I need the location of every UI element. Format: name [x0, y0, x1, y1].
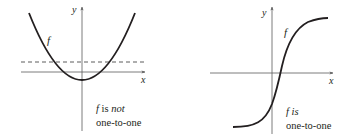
right-graph: y x f f is one-to-one	[210, 7, 334, 134]
left-caption-line2: one-to-one	[96, 117, 142, 128]
right-x-label: x	[328, 75, 334, 86]
left-x-label: x	[140, 74, 146, 85]
right-y-label: y	[261, 7, 267, 18]
left-graph: y x f f is not one-to-one	[21, 4, 146, 131]
left-caption-line1: f is not	[96, 103, 126, 114]
sigmoid-curve	[233, 18, 328, 127]
left-function-label: f	[47, 34, 52, 46]
left-y-label: y	[71, 4, 77, 15]
right-function-label: f	[284, 26, 289, 38]
diagram-canvas: y x f f is not one-to-one y x f f is one…	[0, 0, 349, 140]
right-caption-line2: one-to-one	[286, 120, 332, 131]
right-caption-line1: f is	[286, 106, 299, 117]
